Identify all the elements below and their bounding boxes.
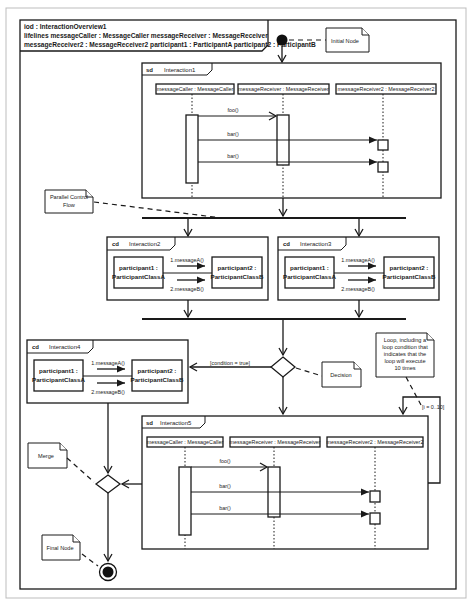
lifeline-label: messageReceiver : MessageReceiver [238,86,329,92]
svg-text:1.messageA(): 1.messageA() [170,257,204,263]
note-initial-node: Initial Node [326,28,369,52]
message-label: foo() [219,458,230,464]
activation-bar [186,115,198,183]
frame-name: Interaction4 [49,344,81,350]
svg-text:10 times: 10 times [394,365,415,371]
interaction2-frame[interactable]: cd Interaction2 participant1 : Participa… [107,237,268,300]
svg-text:Decision: Decision [330,372,351,378]
svg-text:participant1 :: participant1 : [290,264,329,271]
svg-text:ParticipantClassA: ParticipantClassA [283,273,336,280]
svg-text:ParticipantClassB: ParticipantClassB [211,273,264,280]
svg-text:participant2 :: participant2 : [390,264,429,271]
activation-bar [378,162,388,172]
interaction4-frame[interactable]: cd Interaction4 participant1 : Participa… [27,340,188,403]
frame-name: Interaction3 [300,241,332,247]
iod-title: iod : InteractionOverview1 [24,23,107,30]
svg-text:1.messageA(): 1.messageA() [91,360,125,366]
frame-kind: sd [146,67,153,73]
svg-text:Loop, including a: Loop, including a [384,337,427,343]
svg-text:Parallel Control: Parallel Control [50,194,88,200]
svg-text:Final Node: Final Node [46,545,73,551]
lifeline-label: messageReceiver : MessageReceiver [230,439,321,445]
note-parallel-control-flow: Parallel Control Flow [45,190,93,213]
message-label: bar() [219,483,231,489]
interaction3-frame[interactable]: cd Interaction3 participant1 : Participa… [278,237,439,300]
guard-loop: [i = 0..10] [422,404,445,410]
svg-text:participant2 :: participant2 : [218,264,257,271]
lifeline-label: messageReceiver2 : MessageReceiver2 [327,439,424,445]
frame-kind: sd [146,420,153,426]
activation-bar [370,513,380,524]
iod-lifelines-2: messageReceiver2 : MessageReceiver2 part… [24,41,316,49]
svg-text:participant2 :: participant2 : [138,367,177,374]
frame-kind: cd [283,241,290,247]
svg-text:loop condition that: loop condition that [382,344,428,350]
final-node[interactable] [100,564,117,581]
interaction-overview-diagram: iod : InteractionOverview1 lifelines mes… [0,0,473,603]
svg-text:ParticipantClassA: ParticipantClassA [112,273,165,280]
svg-text:ParticipantClassB: ParticipantClassB [131,376,184,383]
svg-text:participant1 :: participant1 : [119,264,158,271]
svg-text:2.messageB(): 2.messageB() [341,286,375,292]
svg-text:Flow: Flow [63,202,76,208]
svg-text:Merge: Merge [38,453,54,459]
interaction5-frame[interactable]: sd Interaction5 messageCaller : MessageC… [142,416,428,549]
message-label: bar() [227,131,239,137]
frame-kind: cd [32,344,39,350]
svg-text:1.messageA(): 1.messageA() [341,257,375,263]
message-label: foo() [227,107,238,113]
svg-text:2.messageB(): 2.messageB() [91,389,125,395]
svg-text:indicates that the: indicates that the [384,351,426,357]
interaction1-frame[interactable]: sd Interaction1 messageCaller : MessageC… [142,63,441,198]
svg-text:participant1 :: participant1 : [39,367,78,374]
message-label: bar() [227,153,239,159]
note-final-node: Final Node [42,535,80,560]
iod-lifelines-1: lifelines messageCaller : MessageCaller … [24,32,268,40]
svg-text:ParticipantClassB: ParticipantClassB [383,273,436,280]
lifeline-label: messageCaller : MessageCaller [147,439,224,445]
note-merge: Merge [28,443,67,468]
frame-name: Interaction2 [129,241,161,247]
note-loop: Loop, including a loop condition that in… [376,333,434,377]
svg-text:ParticipantClassA: ParticipantClassA [32,376,85,383]
lifeline-label: messageCaller : MessageCaller [157,86,234,92]
svg-text:Initial Node: Initial Node [331,38,359,44]
activation-bar [370,491,380,502]
svg-text:loop will execute: loop will execute [384,358,425,364]
activation-bar [378,140,388,150]
frame-kind: cd [112,241,119,247]
initial-node[interactable] [277,35,288,46]
activation-bar [179,467,191,535]
guard-condition-true: [condition = true] [210,360,251,366]
note-decision: Decision [322,362,361,387]
message-label: bar() [219,505,231,511]
svg-text:2.messageB(): 2.messageB() [170,286,204,292]
lifeline-label: messageReceiver2 : MessageReceiver2 [338,86,435,92]
frame-name: Interaction5 [160,420,192,426]
frame-name: Interaction1 [164,67,196,73]
